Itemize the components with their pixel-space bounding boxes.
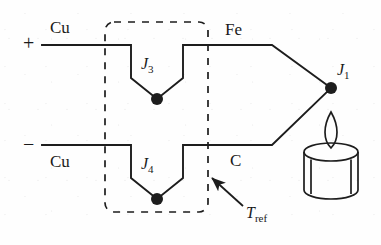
label-junction-j4: J4 <box>141 156 154 175</box>
label-lower-copper: Cu <box>50 153 70 170</box>
tref-subscript: ref <box>255 212 267 224</box>
label-junction-j1: J1 <box>337 62 350 81</box>
tref-arrow <box>212 178 243 206</box>
terminal-negative-sign: − <box>23 134 34 154</box>
label-iron-wire: Fe <box>225 21 242 38</box>
j1-index: 1 <box>344 69 350 81</box>
label-upper-copper: Cu <box>50 19 70 36</box>
j4-index: 4 <box>148 163 154 175</box>
j3-index: 3 <box>148 63 154 75</box>
thermocouple-diagram: + − Cu Cu Fe C J1 J3 J4 Tref <box>0 0 381 245</box>
label-junction-j3: J3 <box>141 56 154 75</box>
label-constantan-wire: C <box>230 152 241 169</box>
label-tref: Tref <box>246 205 267 224</box>
tref-letter: T <box>246 204 255 221</box>
terminal-positive-sign: + <box>23 33 34 53</box>
